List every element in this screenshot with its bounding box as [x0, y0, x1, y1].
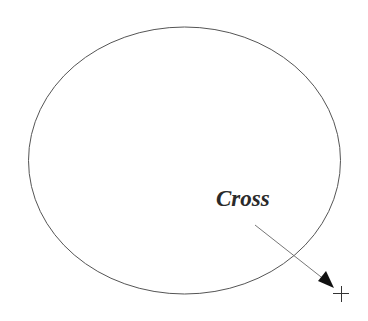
cross-label: Cross	[216, 186, 270, 211]
pointer-arrow	[255, 225, 330, 284]
arrow-head-icon	[318, 271, 334, 288]
outline-ellipse	[29, 27, 341, 294]
diagram-canvas: Cross	[0, 0, 368, 321]
cross-marker-icon	[333, 286, 349, 302]
